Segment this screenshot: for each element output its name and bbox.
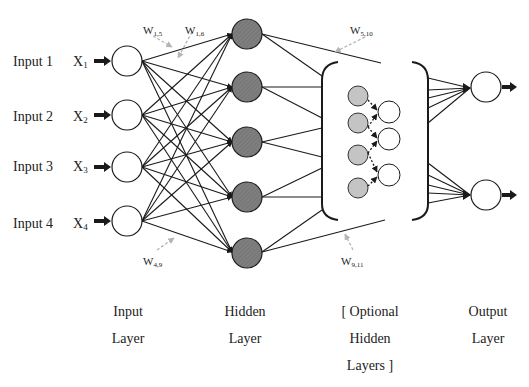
variable-label: X3 [73, 159, 88, 175]
weight-label: W1,5 [143, 24, 163, 38]
input-hidden-connections [142, 34, 232, 252]
hidden-node-7 [232, 127, 262, 157]
variable-labels: X1 X2 X3 X4 [73, 54, 88, 232]
optional-node [348, 86, 368, 106]
input-node-3 [112, 152, 142, 182]
optional-node [348, 145, 368, 165]
optional-node [348, 113, 368, 133]
layer-label-line: Input [98, 298, 158, 325]
output-arrows [502, 82, 517, 200]
hidden-nodes [232, 19, 262, 268]
optional-inner-links [368, 100, 377, 186]
hidden-node-9 [232, 238, 262, 268]
layer-label-line: Hidden [210, 298, 280, 325]
layer-label-line: Layer [210, 325, 280, 352]
input-labels: Input 1 Input 2 Input 3 Input 4 [13, 54, 53, 231]
input-arrow-icon [94, 56, 111, 66]
output-arrow-icon [502, 190, 517, 200]
layer-label-line: [ Optional [330, 298, 410, 325]
hidden-layer-label: Hidden Layer [210, 298, 280, 352]
optional-gray-nodes [348, 86, 368, 198]
variable-label: X2 [73, 109, 88, 125]
input-arrow-icon [94, 110, 111, 120]
input-node-2 [112, 100, 142, 130]
weight-label: W5,10 [350, 24, 373, 38]
input-label: Input 2 [13, 109, 53, 124]
layer-label-line: Layer [98, 325, 158, 352]
output-node-1 [471, 72, 501, 102]
layer-label-line: Hidden [330, 325, 410, 352]
output-arrowheads [463, 83, 471, 200]
input-nodes [112, 46, 142, 236]
optional-node [378, 164, 400, 186]
output-arrow-icon [502, 82, 517, 92]
hidden-optional-connections [262, 34, 385, 252]
layer-label-line: Output [458, 298, 518, 325]
input-arrow-icon [94, 162, 111, 172]
output-layer-label: Output Layer [458, 298, 518, 352]
weight-label: W9,11 [341, 255, 364, 269]
input-label: Input 3 [13, 159, 53, 174]
hidden-node-8 [232, 182, 262, 212]
output-node-2 [471, 180, 501, 210]
optional-white-nodes [378, 101, 400, 186]
hidden-node-5 [232, 19, 262, 49]
hidden-node-6 [232, 72, 262, 102]
weight-label: W1,6 [185, 24, 205, 38]
optional-node [378, 101, 400, 123]
input-label: Input 1 [13, 54, 53, 69]
optional-node [378, 128, 400, 150]
optional-node [348, 178, 368, 198]
weight-label: W4,9 [143, 255, 163, 269]
optional-output-connections [428, 78, 470, 203]
optional-layers-bracket [322, 62, 428, 220]
input-layer-label: Input Layer [98, 298, 158, 352]
output-nodes [471, 72, 501, 210]
variable-label: X4 [73, 216, 88, 232]
input-node-4 [112, 206, 142, 236]
optional-layers-label: [ Optional Hidden Layers ] [330, 298, 410, 379]
input-node-1 [112, 46, 142, 76]
input-arrows [94, 56, 111, 226]
variable-label: X1 [73, 54, 88, 70]
input-arrow-icon [94, 216, 111, 226]
layer-label-line: Layer [458, 325, 518, 352]
layer-label-line: Layers ] [330, 352, 410, 379]
input-label: Input 4 [13, 216, 53, 231]
